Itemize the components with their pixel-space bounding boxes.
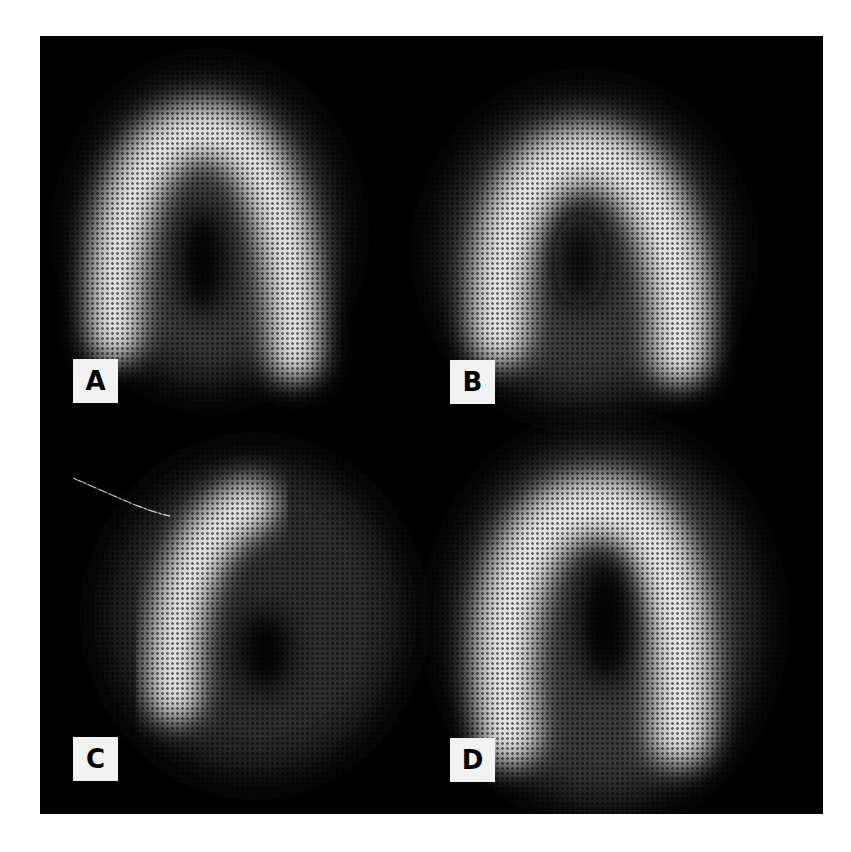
panel-c-scan [73,461,400,771]
heart-scans [40,36,823,814]
panel-a-scan [85,81,335,381]
panel-label-c: C [73,737,118,781]
panel-label-b: B [450,360,495,404]
panel-d-scan [455,441,755,801]
panel-label-a: A [73,359,118,403]
panel-b-scan [445,101,725,401]
scintigraphy-figure: A B C D [40,36,823,814]
panel-label-d: D [450,738,495,782]
